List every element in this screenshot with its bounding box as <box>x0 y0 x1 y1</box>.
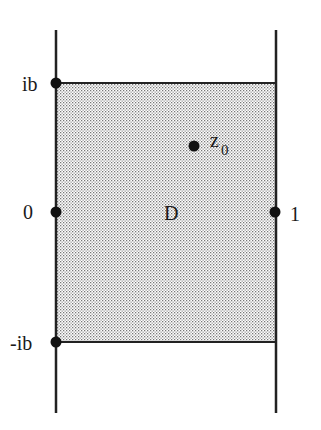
label-z-subscript: 0 <box>221 142 229 158</box>
point-z0 <box>189 141 200 152</box>
label-zero: 0 <box>23 201 33 223</box>
label-one: 1 <box>290 203 300 225</box>
point-ib <box>51 78 62 89</box>
strip-diagram: ib 0 -ib 1 D z 0 <box>0 0 321 430</box>
point-minus-ib <box>51 337 62 348</box>
label-ib: ib <box>22 73 38 95</box>
point-zero <box>51 207 62 218</box>
label-z: z <box>210 129 219 151</box>
label-region-d: D <box>164 202 178 224</box>
point-one <box>270 207 281 218</box>
label-minus-ib: -ib <box>10 332 32 354</box>
